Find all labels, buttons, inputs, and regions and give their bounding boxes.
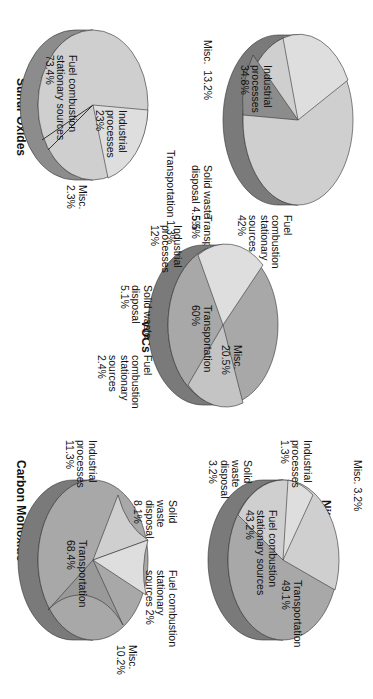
chart-nitrogen-oxides: Nitrogen Oxides Fuel combustion stationa… [188, 440, 373, 699]
chart-vocs: VOCs Transportation 60% Misc. 20.5% Indu… [73, 225, 313, 445]
chart-sulfur-oxides: Sulfur Oxides Fuel combustion stationary… [0, 0, 188, 240]
chart-page: Sulfur Oxides Fuel combustion stationary… [0, 0, 373, 699]
chart-carbon-monoxide: Carbon Monoxide Transportation 68.4% Ind… [0, 440, 188, 699]
